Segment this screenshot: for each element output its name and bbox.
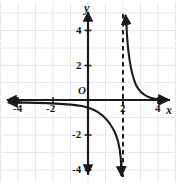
x-tick-label-4: 4 bbox=[155, 103, 161, 114]
y-tick-label--2: -2 bbox=[72, 129, 81, 140]
x-tick-label--4: -4 bbox=[13, 103, 22, 114]
y-axis-label: y bbox=[84, 2, 89, 14]
y-tick-label--4: -4 bbox=[72, 164, 81, 175]
y-tick-label-2: 2 bbox=[76, 60, 82, 71]
graph-canvas bbox=[0, 0, 176, 186]
rational-function-graph: -4 -2 2 4 4 2 -2 -4 O x y bbox=[0, 0, 176, 186]
curve-right-branch bbox=[126, 22, 163, 100]
origin-label: O bbox=[78, 85, 86, 96]
x-tick-label-2: 2 bbox=[120, 103, 126, 114]
x-axis-label: x bbox=[166, 104, 172, 116]
axis-lines bbox=[7, 12, 170, 175]
x-tick-label--2: -2 bbox=[46, 103, 55, 114]
curve-right-branch-up-arrow bbox=[126, 15, 127, 26]
y-tick-label-4: 4 bbox=[76, 25, 82, 36]
